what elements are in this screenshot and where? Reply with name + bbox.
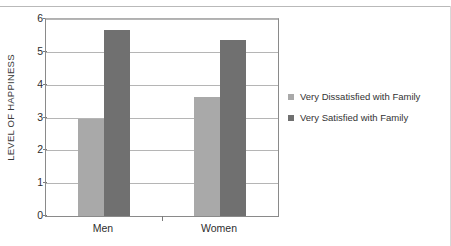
legend-label: Very Satisfied with Family [300, 112, 408, 123]
bar [220, 40, 246, 216]
bar-chart-figure: LEVEL OF HAPPINESS 0123456 MenWomen Very… [0, 0, 451, 246]
legend-item[interactable]: Very Dissatisfied with Family [288, 88, 448, 105]
legend-swatch-icon [288, 94, 294, 100]
y-tick-label: 3 [21, 111, 43, 123]
chart-legend: Very Dissatisfied with FamilyVery Satisf… [288, 88, 448, 130]
bar [78, 119, 104, 217]
bar [104, 30, 130, 216]
legend-label: Very Dissatisfied with Family [300, 91, 420, 102]
bar [194, 97, 220, 216]
legend-swatch-icon [288, 115, 294, 121]
y-tick-label: 6 [21, 12, 43, 24]
plot-area [45, 18, 279, 217]
x-tick-mark [162, 216, 163, 221]
x-axis-label: Men [93, 222, 113, 234]
y-tick-label: 4 [21, 78, 43, 90]
y-tick-label: 1 [21, 176, 43, 188]
x-axis-labels: MenWomen [45, 222, 279, 238]
y-tick-label: 2 [21, 143, 43, 155]
y-tick-label: 5 [21, 45, 43, 57]
y-tick-label: 0 [21, 209, 43, 221]
y-axis-ticks: 0123456 [12, 18, 43, 215]
x-axis-label: Women [201, 222, 237, 234]
figure-top-border [0, 6, 451, 7]
bars-layer [46, 19, 278, 216]
legend-item[interactable]: Very Satisfied with Family [288, 109, 448, 126]
